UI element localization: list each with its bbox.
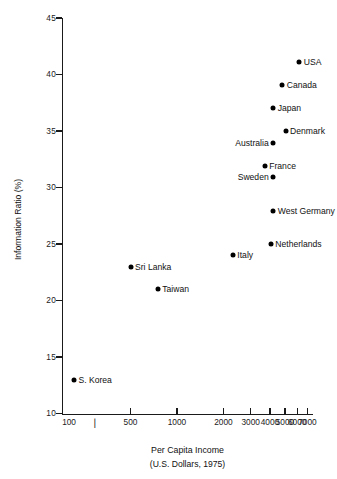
data-point-label: Canada bbox=[287, 80, 317, 89]
x-tick-label: 1000 bbox=[168, 418, 186, 427]
y-tick-label: 30 bbox=[24, 183, 56, 191]
x-tick-label: 2000 bbox=[214, 418, 232, 427]
x-tick-label: 7000 bbox=[298, 418, 316, 427]
data-point bbox=[155, 287, 160, 292]
data-point-label: France bbox=[269, 162, 296, 171]
data-point bbox=[262, 164, 267, 169]
data-point-label: Japan bbox=[278, 104, 301, 113]
x-tick-label: 500 bbox=[124, 418, 138, 427]
x-axis-title: Per Capita Income (U.S. Dollars, 1975) bbox=[62, 443, 313, 471]
y-axis-line bbox=[62, 18, 63, 414]
y-tick-label: 45 bbox=[24, 14, 56, 22]
data-point bbox=[71, 377, 76, 382]
x-axis-title-main: Per Capita Income bbox=[62, 443, 313, 457]
y-tick-label: 40 bbox=[24, 70, 56, 78]
data-point-label: Sri Lanka bbox=[135, 262, 171, 271]
y-tick-mark bbox=[56, 17, 62, 18]
data-point bbox=[280, 82, 285, 87]
data-point-label: West Germany bbox=[278, 207, 335, 216]
data-point-label: Italy bbox=[237, 251, 253, 260]
y-tick-label: 15 bbox=[24, 353, 56, 361]
scatter-chart: 1015202530354045 50010002000300040005000… bbox=[0, 0, 337, 479]
data-point-label: S. Korea bbox=[78, 375, 111, 384]
data-point bbox=[283, 129, 288, 134]
x-tick-mark bbox=[269, 408, 270, 414]
data-point bbox=[271, 175, 276, 180]
data-point bbox=[268, 242, 273, 247]
x-tick-label: 3000 bbox=[241, 418, 259, 427]
data-point-label: USA bbox=[304, 58, 322, 67]
data-point-label: Denmark bbox=[290, 127, 325, 136]
data-point bbox=[271, 209, 276, 214]
y-tick-mark bbox=[56, 187, 62, 188]
y-tick-label: 10 bbox=[24, 409, 56, 417]
data-point-label: Taiwan bbox=[162, 285, 189, 294]
x-axis-title-sub: (U.S. Dollars, 1975) bbox=[62, 457, 313, 471]
y-tick-mark bbox=[56, 243, 62, 244]
x-axis-minor-mark: ▕ bbox=[89, 419, 95, 428]
x-tick-mark bbox=[130, 408, 131, 414]
x-tick-mark bbox=[176, 408, 177, 414]
data-point bbox=[230, 253, 235, 258]
y-tick-label: 35 bbox=[24, 127, 56, 135]
x-tick-mark bbox=[297, 408, 298, 414]
y-tick-label: 20 bbox=[24, 296, 56, 304]
y-tick-mark bbox=[56, 300, 62, 301]
data-point-label: Netherlands bbox=[275, 240, 321, 249]
y-tick-mark bbox=[56, 130, 62, 131]
data-point bbox=[297, 60, 302, 65]
x-tick-mark bbox=[307, 408, 308, 414]
x-tick-mark bbox=[223, 408, 224, 414]
data-point bbox=[128, 264, 133, 269]
y-axis-title: Information Ratio (%) bbox=[14, 150, 23, 290]
x-tick-mark bbox=[284, 408, 285, 414]
data-point bbox=[271, 141, 276, 146]
data-point bbox=[271, 106, 276, 111]
y-tick-label: 25 bbox=[24, 240, 56, 248]
x-tick-mark bbox=[250, 408, 251, 414]
data-point-label: Australia bbox=[235, 139, 268, 148]
y-tick-mark bbox=[56, 74, 62, 75]
y-tick-mark bbox=[56, 413, 62, 414]
x-tick-label: 100 bbox=[62, 418, 76, 427]
y-tick-mark bbox=[56, 356, 62, 357]
x-axis-line bbox=[62, 414, 313, 415]
data-point-label: Sweden bbox=[238, 173, 269, 182]
